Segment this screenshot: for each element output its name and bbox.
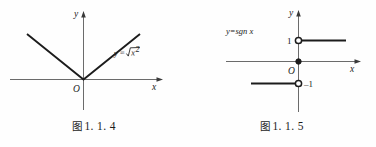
figure-page: y x O y = x 2: [0, 0, 376, 147]
filled-point-origin: [296, 59, 301, 64]
y-axis-label: y: [73, 9, 79, 19]
y-axis-arrowhead-icon: [81, 11, 86, 18]
open-point-positive-one: [295, 37, 301, 43]
origin-label: O: [73, 84, 80, 94]
y-axis-arrowhead-icon: [296, 10, 301, 17]
figure-caption-right: 图1. 1. 5: [188, 118, 376, 133]
caption-prefix-right: 图: [260, 120, 270, 132]
figure-caption-left: 图1. 1. 4: [0, 118, 188, 133]
open-point-negative-one: [295, 80, 301, 86]
curve-label-exponent: 2: [135, 44, 140, 54]
x-axis-arrowhead-icon: [157, 77, 164, 82]
tick-label-positive-one: 1: [287, 36, 292, 46]
x-axis-label: x: [349, 64, 355, 74]
plot-svg-left: y x O y = x 2: [0, 0, 188, 118]
origin-label: O: [288, 66, 295, 76]
figure-1-1-5: y x O 1 –1: [188, 0, 376, 147]
plot-svg-right: y x O 1 –1: [188, 0, 376, 118]
tick-label-negative-one: –1: [303, 79, 313, 89]
curve-label-sgn: y=sgn x: [225, 26, 253, 36]
plot-area-right: y x O 1 –1: [188, 0, 376, 118]
caption-number-left: 1. 1. 4: [84, 120, 116, 132]
figure-1-1-4: y x O y = x 2: [0, 0, 188, 147]
caption-number-right: 1. 1. 5: [272, 120, 304, 132]
caption-prefix-left: 图: [72, 120, 82, 132]
plot-area-left: y x O y = x 2: [0, 0, 188, 118]
x-axis-arrowhead-icon: [355, 59, 362, 64]
curve-label-lhs: y: [113, 48, 118, 58]
y-axis-label: y: [288, 8, 294, 18]
x-axis-label: x: [151, 82, 157, 92]
curve-label-equals: =: [119, 48, 125, 58]
